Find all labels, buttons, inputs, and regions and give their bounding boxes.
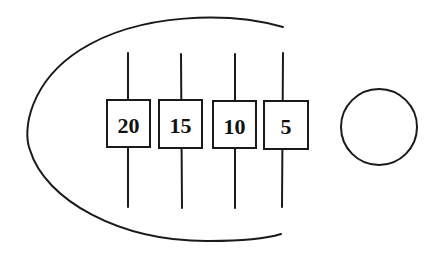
diagram-canvas: 20 15 10 5 <box>0 0 446 264</box>
element-20: 20 <box>107 53 150 207</box>
circle <box>341 89 417 165</box>
element-label: 20 <box>118 113 140 138</box>
element-label: 5 <box>281 114 292 139</box>
element-10: 10 <box>213 54 256 208</box>
element-15: 15 <box>159 54 202 208</box>
element-label: 10 <box>224 114 246 139</box>
element-label: 15 <box>170 113 192 138</box>
element-5: 5 <box>264 53 308 207</box>
